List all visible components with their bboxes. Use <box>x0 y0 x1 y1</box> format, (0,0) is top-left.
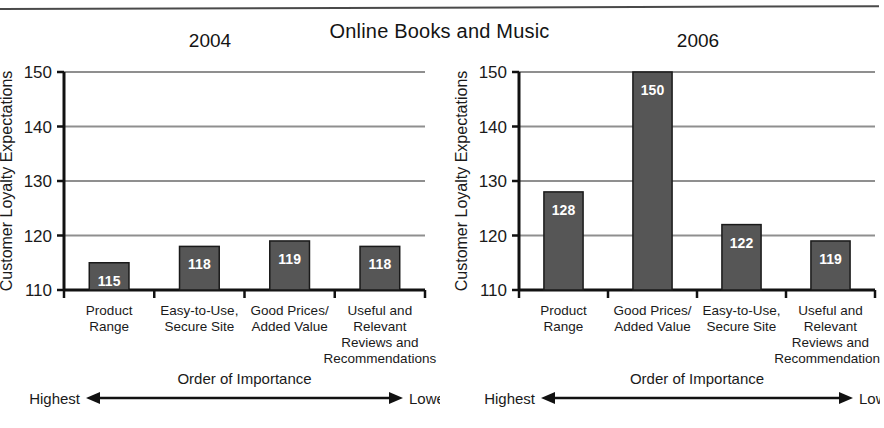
bar-value-label-1: 118 <box>188 256 211 272</box>
importance-arrow-head-left <box>86 392 100 404</box>
x-category-label-2: Good Prices/Added Value <box>251 303 329 334</box>
y-tick-label-140: 140 <box>479 118 507 137</box>
x-category-label-2: Easy-to-Use,Secure Site <box>702 303 780 334</box>
x-axis-caption: Order of Importance <box>630 370 764 387</box>
bar-value-label-2: 122 <box>730 235 754 251</box>
bar-value-label-0: 128 <box>552 202 576 218</box>
bar-value-label-3: 118 <box>369 256 392 272</box>
y-tick-label-130: 130 <box>479 172 507 191</box>
bar-value-label-0: 115 <box>98 273 121 289</box>
importance-label-highest: Highest <box>484 390 536 407</box>
x-axis-caption: Order of Importance <box>177 370 311 387</box>
y-tick-label-110: 110 <box>25 281 52 300</box>
bar-value-label-1: 150 <box>641 82 665 98</box>
chart-panel-2006: 2006 110120130140150Customer Loyalty Exp… <box>440 0 880 428</box>
importance-label-lowest: Lowest <box>409 390 440 407</box>
y-tick-label-140: 140 <box>24 118 52 137</box>
y-tick-label-120: 120 <box>24 227 52 246</box>
y-axis-title: Customer Loyalty Expectations <box>453 71 470 292</box>
y-tick-label-150: 150 <box>479 63 507 82</box>
importance-arrow-head-right <box>389 392 403 404</box>
chart-panel-2004: 2004 110120130140150Customer Loyalty Exp… <box>0 0 440 428</box>
bar-value-label-3: 119 <box>819 251 842 267</box>
y-tick-label-150: 150 <box>24 63 52 82</box>
x-category-label-1: Good Prices/Added Value <box>613 303 691 334</box>
importance-label-highest: Highest <box>29 390 81 407</box>
x-category-label-0: ProductRange <box>86 303 133 334</box>
importance-arrow-head-left <box>541 392 555 404</box>
bar-1[interactable] <box>633 72 672 290</box>
y-tick-label-110: 110 <box>480 281 507 300</box>
y-tick-label-130: 130 <box>24 172 52 191</box>
x-category-label-3: Useful andRelevantReviews andRecommendat… <box>774 303 880 366</box>
bar-chart-2006: 110120130140150Customer Loyalty Expectat… <box>440 0 880 428</box>
y-tick-label-120: 120 <box>479 227 507 246</box>
y-axis-title: Customer Loyalty Expectations <box>0 71 15 292</box>
x-category-label-0: ProductRange <box>540 303 587 334</box>
bar-value-label-2: 119 <box>278 251 301 267</box>
bar-chart-2004: 110120130140150Customer Loyalty Expectat… <box>0 0 440 428</box>
importance-label-lowest: Lowest <box>859 390 880 407</box>
x-category-label-1: Easy-to-Use,Secure Site <box>160 303 238 334</box>
importance-arrow-head-right <box>839 392 853 404</box>
x-category-label-3: Useful andRelevantReviews andRecommendat… <box>324 303 437 366</box>
